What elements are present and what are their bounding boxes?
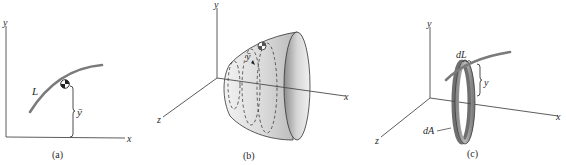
caption-b: (b) (243, 150, 255, 162)
caption-a: (a) (52, 149, 63, 161)
paraboloid-opening (284, 32, 310, 140)
z-axis-label: z (374, 135, 379, 146)
z-axis-label: z (156, 114, 161, 125)
panel-c: y z x dL y dA (c) (374, 18, 561, 160)
centroid-icon (258, 42, 266, 50)
element-length-label: dL (456, 49, 467, 60)
x-axis-label: x (126, 133, 132, 144)
theorem-of-pappus-figure: y x L ȳ (a) y z x (0, 0, 566, 165)
x-axis-label: x (343, 91, 349, 102)
caption-c: (c) (467, 148, 478, 160)
centroid-distance-label: ȳ (76, 106, 83, 118)
x-axis (6, 137, 125, 138)
panel-a: y x L ȳ (a) (2, 17, 132, 161)
centroid-distance-label: ȳ (245, 51, 251, 62)
distance-brace (477, 64, 482, 96)
element-area-label: dA (423, 125, 435, 136)
y-axis-label: y (2, 17, 8, 28)
distance-label: y (483, 77, 489, 88)
x-axis-label: x (555, 111, 561, 122)
y-axis-label: y (213, 0, 219, 10)
curve-label: L (31, 85, 38, 97)
leader-line (437, 128, 451, 131)
x-axis (430, 98, 558, 116)
panel-b: y z x ȳ (b) (156, 0, 349, 162)
z-axis (163, 78, 217, 117)
y-axis-label: y (426, 18, 432, 29)
centroid-icon (61, 80, 70, 89)
distance-brace (70, 86, 75, 137)
